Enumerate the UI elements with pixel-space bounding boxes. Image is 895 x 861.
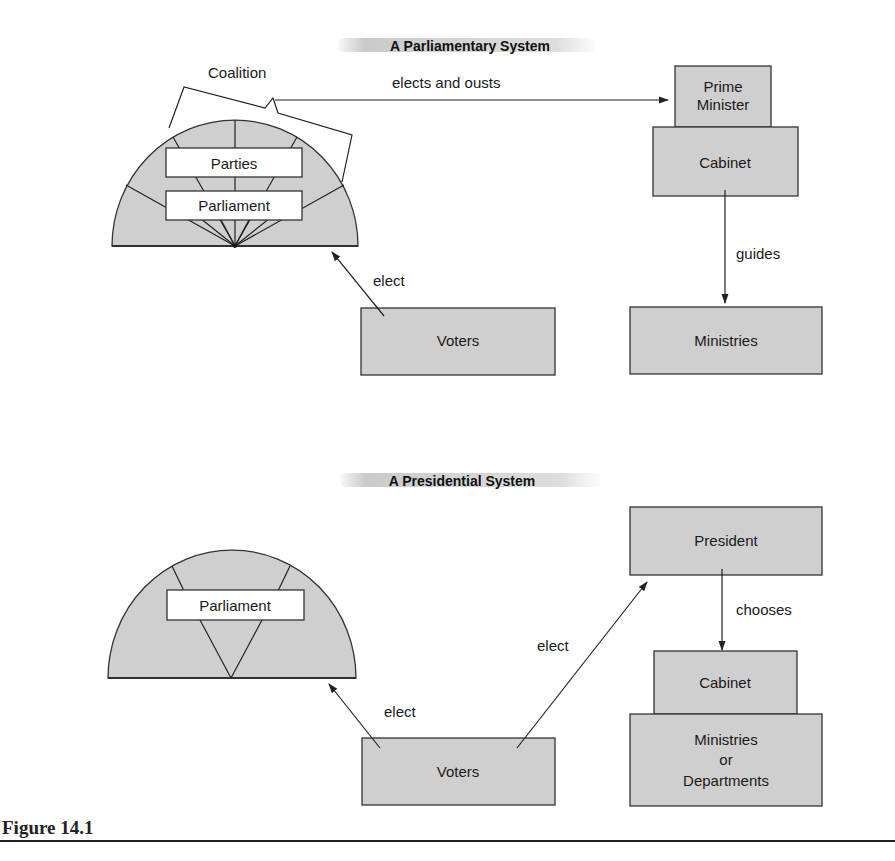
ministries-label: Ministries	[694, 332, 757, 349]
figure-caption: Figure 14.1	[2, 817, 93, 838]
elect-parliament-label: elect	[384, 703, 417, 720]
presidential-title: A Presidential System	[389, 473, 536, 489]
parliament-semicircle	[112, 120, 358, 248]
prime-minister-label-line1: Prime	[703, 78, 742, 95]
parties-label: Parties	[211, 155, 258, 172]
chooses-label: chooses	[736, 601, 792, 618]
diagram-canvas: A Parliamentary System Parties Parliamen…	[0, 0, 895, 861]
coalition-label: Coalition	[208, 64, 266, 81]
voters-elect-president-arrow	[517, 582, 647, 748]
president-label: President	[694, 532, 758, 549]
ministries-label-line1: Ministries	[694, 731, 757, 748]
presidential-system: A Presidential System Parliament Preside…	[108, 473, 822, 806]
voters-elect-parliament-arrow	[329, 684, 380, 748]
parliament-label: Parliament	[199, 597, 272, 614]
parliamentary-system: A Parliamentary System Parties Parliamen…	[112, 38, 822, 375]
parliament-label: Parliament	[198, 197, 271, 214]
parliamentary-title: A Parliamentary System	[390, 38, 550, 54]
cabinet-label: Cabinet	[699, 154, 752, 171]
ministries-label-line2: or	[719, 751, 732, 768]
ministries-label-line3: Departments	[683, 772, 769, 789]
prime-minister-label-line2: Minister	[697, 96, 750, 113]
cabinet-label: Cabinet	[699, 674, 752, 691]
voters-label: Voters	[437, 763, 480, 780]
elect-label: elect	[373, 272, 406, 289]
elects-ousts-label: elects and ousts	[392, 74, 500, 91]
guides-label: guides	[736, 245, 780, 262]
elect-president-label: elect	[537, 637, 570, 654]
voters-label: Voters	[437, 332, 480, 349]
